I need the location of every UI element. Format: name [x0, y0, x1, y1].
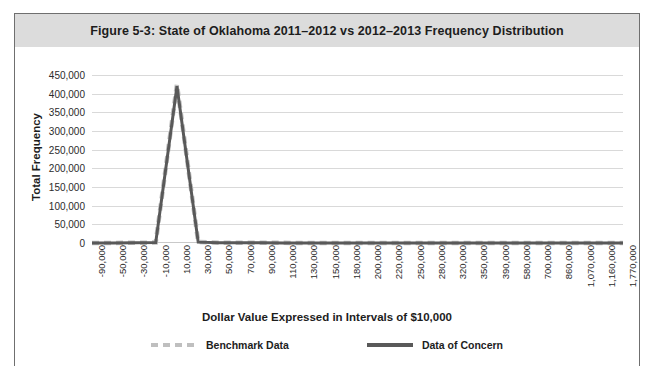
plot-area — [92, 75, 623, 243]
y-tick-label: 150,000 — [25, 182, 85, 193]
y-tick-label: 400,000 — [25, 88, 85, 99]
y-tick-label: 200,000 — [25, 163, 85, 174]
legend-label-data-of-concern: Data of Concern — [422, 339, 503, 351]
y-tick-label: 50,000 — [25, 219, 85, 230]
x-tick-label: 280,000 — [436, 245, 447, 279]
legend-item-benchmark-data: Benchmark Data — [151, 339, 289, 351]
legend-swatch-benchmark-data-icon — [151, 343, 197, 347]
y-tick-label: 100,000 — [25, 200, 85, 211]
x-tick-label: 1,070,000 — [585, 245, 596, 287]
legend-swatch-data-of-concern-icon — [367, 343, 413, 347]
x-tick-label: 1,770,000 — [627, 245, 638, 287]
x-tick-label: 320,000 — [457, 245, 468, 279]
x-tick-label: 1,160,000 — [606, 245, 617, 287]
x-tick-label: -30,000 — [138, 245, 149, 277]
series-container — [92, 75, 623, 243]
y-tick-label: 300,000 — [25, 126, 85, 137]
figure-title-bar: Figure 5-3: State of Oklahoma 2011–2012 … — [15, 14, 639, 47]
x-tick-label: -50,000 — [117, 245, 128, 277]
x-tick-label: 90,000 — [266, 245, 277, 274]
x-tick-label: 580,000 — [521, 245, 532, 279]
y-axis-tick-labels: 050,000100,000150,000200,000250,000300,0… — [23, 75, 85, 243]
x-tick-label: 10,000 — [181, 245, 192, 274]
x-axis-tick-labels: -90,000-50,000-30,000-10,00010,00030,000… — [92, 245, 623, 307]
chart-legend: Benchmark Data Data of Concern — [15, 339, 639, 351]
x-tick-label: 250,000 — [415, 245, 426, 279]
chart-body: Total Frequency 050,000100,000150,000200… — [15, 47, 639, 367]
x-tick-label: 350,000 — [478, 245, 489, 279]
legend-item-data-of-concern: Data of Concern — [367, 339, 503, 351]
x-tick-label: 390,000 — [500, 245, 511, 279]
x-tick-label: 110,000 — [287, 245, 298, 279]
legend-label-benchmark-data: Benchmark Data — [206, 339, 289, 351]
x-tick-label: 860,000 — [563, 245, 574, 279]
x-tick-label: 200,000 — [372, 245, 383, 279]
x-tick-label: 30,000 — [202, 245, 213, 274]
x-tick-label: -90,000 — [96, 245, 107, 277]
y-tick-label: 350,000 — [25, 107, 85, 118]
figure-frame: Figure 5-3: State of Oklahoma 2011–2012 … — [14, 13, 640, 366]
x-tick-label: 220,000 — [393, 245, 404, 279]
page-title: Figure 5-3: State of Oklahoma 2011–2012 … — [90, 24, 564, 38]
y-tick-label: 450,000 — [25, 70, 85, 81]
x-tick-label: 150,000 — [330, 245, 341, 279]
x-tick-label: 180,000 — [351, 245, 362, 279]
x-tick-label: 700,000 — [542, 245, 553, 279]
x-tick-label: 50,000 — [223, 245, 234, 274]
x-tick-label: -10,000 — [160, 245, 171, 277]
x-tick-label: 70,000 — [245, 245, 256, 274]
x-axis-title: Dollar Value Expressed in Intervals of $… — [15, 311, 639, 323]
series-line-benchmark-data — [92, 84, 623, 243]
x-tick-label: 130,000 — [308, 245, 319, 279]
y-tick-label: 0 — [25, 238, 85, 249]
y-tick-label: 250,000 — [25, 144, 85, 155]
